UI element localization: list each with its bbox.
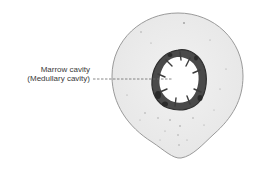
bone-cross-section-illustration bbox=[0, 0, 257, 170]
medullary-cavity-label: (Medullary cavity) bbox=[27, 74, 90, 83]
bone-cross-section-figure: Marrow cavity (Medullary cavity) bbox=[0, 0, 257, 170]
marrow-cavity-label: Marrow cavity bbox=[41, 65, 90, 74]
